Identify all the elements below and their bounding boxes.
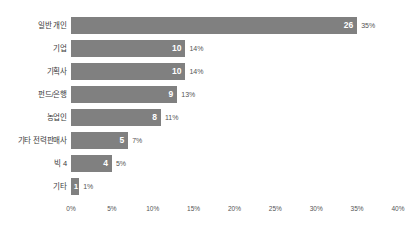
bar-area: 57% <box>71 132 402 149</box>
bar-value-label: 26 <box>344 21 357 30</box>
bar-percent-label: 13% <box>181 91 195 98</box>
bar-row: 기타 전력판매사57% <box>0 129 402 152</box>
bar: 5 <box>71 132 128 149</box>
bar-area: 913% <box>71 86 402 103</box>
bar-value-label: 10 <box>172 67 185 76</box>
bar: 10 <box>71 40 185 57</box>
bar-value-label: 9 <box>169 90 178 99</box>
bar-value-label: 1 <box>74 183 79 191</box>
x-axis-tick-label: 35% <box>351 206 364 213</box>
x-axis-tick-label: 30% <box>310 206 323 213</box>
bar-percent-label: 14% <box>189 45 203 52</box>
x-axis-tick-label: 20% <box>228 206 241 213</box>
x-axis-tick-label: 0% <box>66 206 75 213</box>
x-axis-tick-label: 25% <box>269 206 282 213</box>
bar-row: 일반 개인2635% <box>0 14 402 37</box>
bar-value-label: 5 <box>119 136 128 145</box>
bar: 1 <box>71 178 79 195</box>
category-label: 펀드/은행 <box>0 91 71 99</box>
bar: 10 <box>71 63 185 80</box>
bar-percent-label: 11% <box>165 114 179 121</box>
bar-area: 811% <box>71 109 402 126</box>
bar-row: 농업인811% <box>0 106 402 129</box>
bar-area: 2635% <box>71 17 402 34</box>
x-axis: 0%5%10%15%20%25%30%35%40% <box>71 206 398 220</box>
bar-row: 기업1014% <box>0 37 402 60</box>
bar-percent-label: 5% <box>116 160 126 167</box>
bar-value-label: 4 <box>103 159 112 168</box>
bar-row: 빅 445% <box>0 152 402 175</box>
bar-percent-label: 14% <box>189 68 203 75</box>
bar: 9 <box>71 86 177 103</box>
bar: 4 <box>71 155 112 172</box>
bar-rows-container: 일반 개인2635%기업1014%기획사1014%펀드/은행913%농업인811… <box>0 14 402 198</box>
x-axis-tick-label: 10% <box>146 206 159 213</box>
bar-percent-label: 7% <box>132 137 142 144</box>
bar: 8 <box>71 109 161 126</box>
bar-row: 기획사1014% <box>0 60 402 83</box>
bar-percent-label: 35% <box>361 22 375 29</box>
bar-value-label: 8 <box>152 113 161 122</box>
category-label: 기획사 <box>0 68 71 76</box>
category-label: 농업인 <box>0 114 71 122</box>
x-axis-tick-label: 5% <box>107 206 116 213</box>
x-axis-tick-label: 40% <box>391 206 404 213</box>
bar-area: 1014% <box>71 63 402 80</box>
bar-area: 1014% <box>71 40 402 57</box>
bar-percent-label: 1% <box>83 183 93 190</box>
category-label: 빅 4 <box>0 160 71 168</box>
category-label: 일반 개인 <box>0 22 71 30</box>
bar-row: 기타11% <box>0 175 402 198</box>
bar: 26 <box>71 17 357 34</box>
x-axis-tick-label: 15% <box>187 206 200 213</box>
bar-area: 11% <box>71 178 402 195</box>
bar-value-label: 10 <box>172 44 185 53</box>
category-label: 기업 <box>0 45 71 53</box>
bar-area: 45% <box>71 155 402 172</box>
bar-row: 펀드/은행913% <box>0 83 402 106</box>
category-label: 기타 <box>0 183 71 191</box>
category-label: 기타 전력판매사 <box>0 137 71 145</box>
